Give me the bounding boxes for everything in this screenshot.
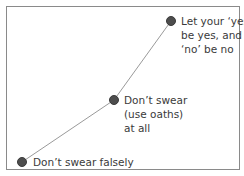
point-label-low: Don’t swear falsely xyxy=(33,155,134,169)
point-marker-high xyxy=(166,16,176,26)
point-marker-mid xyxy=(109,95,119,105)
point-marker-low xyxy=(17,157,27,167)
point-label-mid: Don’t swear (use oaths) at all xyxy=(124,93,187,135)
point-label-high: Let your ‘yes’ be yes, and ‘no’ be no xyxy=(181,14,244,56)
